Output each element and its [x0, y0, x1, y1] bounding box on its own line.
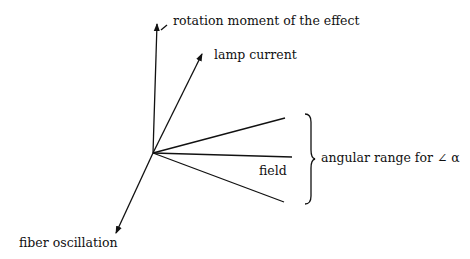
angular-range-brace	[305, 114, 315, 204]
fiber-oscillation-arrow	[116, 153, 153, 233]
vector-diagram: rotation moment of the effect lamp curre…	[0, 0, 470, 259]
rotation-moment-label: rotation moment of the effect	[173, 13, 360, 28]
rotation-label-tick	[161, 25, 167, 30]
field-line	[153, 153, 292, 157]
lamp-current-arrow	[153, 54, 202, 153]
field-label: field	[259, 163, 287, 178]
rotation-moment-arrow	[153, 24, 157, 153]
lamp-current-label: lamp current	[214, 47, 297, 62]
fiber-oscillation-label: fiber oscillation	[19, 235, 118, 250]
angular-range-label: angular range for ∠ α	[321, 150, 460, 165]
upper-range-line	[153, 118, 285, 153]
